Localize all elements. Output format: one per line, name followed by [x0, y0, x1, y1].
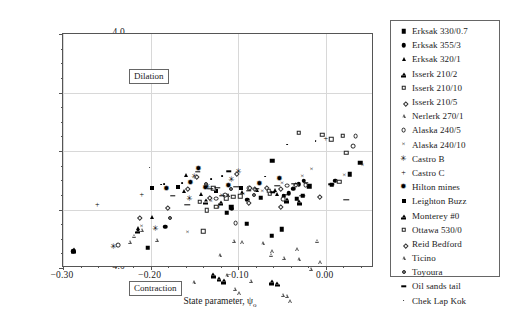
legend-marker-dash-icon	[397, 281, 410, 291]
data-point: ×	[359, 162, 367, 170]
legend-item-label: Erksak 330/0.7	[410, 26, 468, 36]
legend-item[interactable]: Isserk 210/2	[391, 67, 499, 81]
data-point	[71, 249, 76, 254]
legend-item-label: Erksak 320/1	[410, 54, 461, 64]
data-point	[282, 194, 288, 195]
data-point	[318, 260, 322, 264]
data-point	[278, 186, 283, 191]
data-point	[296, 130, 301, 135]
data-point	[269, 253, 273, 257]
data-point	[136, 228, 140, 231]
data-point	[320, 133, 325, 138]
data-point	[270, 191, 276, 192]
data-point	[163, 183, 165, 185]
x-tick-label: −0.30	[32, 270, 92, 280]
data-point	[160, 184, 162, 186]
legend-item[interactable]: Oil sands tail	[391, 279, 499, 293]
gridline-vertical	[326, 34, 327, 266]
legend-item[interactable]: Erksak 320/1	[391, 52, 499, 66]
legend-item[interactable]: Reid Bedford	[391, 237, 499, 251]
data-point	[303, 182, 308, 187]
data-point	[214, 196, 219, 201]
data-point: ×	[218, 192, 226, 200]
data-point	[176, 185, 180, 189]
data-point	[279, 227, 284, 232]
data-point	[240, 190, 244, 194]
legend-marker-sq-o-icon	[397, 83, 410, 93]
data-point	[185, 186, 190, 191]
legend-marker-di-o-icon	[397, 97, 410, 107]
data-point	[201, 229, 206, 234]
data-point	[265, 185, 270, 190]
legend-item[interactable]: Chek Lap Kok	[391, 294, 499, 308]
data-point	[244, 221, 249, 226]
data-point	[254, 188, 260, 189]
legend-item[interactable]: ✹Hilton mines	[391, 180, 499, 194]
data-point	[275, 192, 279, 196]
data-point	[275, 281, 279, 284]
x-tick-label: −0.20	[120, 270, 180, 280]
data-point: ×	[307, 166, 315, 174]
data-point	[204, 182, 208, 186]
data-point: ✳	[227, 176, 236, 185]
x-tick-minor	[98, 266, 99, 268]
legend-item[interactable]: Isserk 210/5	[391, 95, 499, 109]
y-tick-minor	[61, 122, 63, 123]
legend-item[interactable]: ×Alaska 240/10	[391, 138, 499, 152]
data-point: ✹	[224, 182, 233, 191]
legend-marker-ci-f-icon	[397, 40, 410, 50]
legend-item[interactable]: Monterey #0	[391, 208, 499, 222]
legend-item[interactable]: Nerlerk 270/1	[391, 109, 499, 123]
legend-item-label: Erksak 355/3	[410, 40, 461, 50]
data-point	[329, 183, 334, 188]
legend-item-label: Isserk 210/10	[410, 83, 462, 93]
data-point	[220, 195, 226, 196]
data-point	[224, 196, 229, 201]
data-point	[247, 186, 252, 191]
legend-marker-tri-f-icon	[397, 54, 410, 64]
legend-item[interactable]: Alaska 240/5	[391, 123, 499, 137]
data-point	[315, 140, 317, 142]
legend-item[interactable]: ✳Castro B	[391, 152, 499, 166]
data-point	[204, 199, 208, 202]
data-point	[252, 187, 257, 192]
legend-marker-plus-icon: +	[397, 168, 410, 178]
data-point	[340, 134, 345, 139]
data-point	[223, 192, 228, 197]
legend-item-label: Castro C	[410, 168, 445, 178]
data-point	[190, 180, 192, 182]
data-point: ✹	[162, 185, 171, 194]
data-point	[285, 198, 289, 201]
data-point	[247, 185, 252, 190]
data-point: ×	[278, 180, 286, 188]
x-tick-major	[151, 266, 152, 270]
legend-item-label: Isserk 210/5	[410, 97, 457, 107]
data-point	[207, 195, 212, 200]
x-tick-minor	[273, 266, 274, 268]
data-point	[239, 186, 243, 190]
legend-item[interactable]: Toyoura	[391, 265, 499, 279]
data-point	[233, 287, 237, 291]
data-point	[270, 158, 275, 163]
legend-item[interactable]: +Castro C	[391, 166, 499, 180]
legend-item-label: Hilton mines	[410, 182, 460, 192]
data-point: ×	[258, 188, 266, 196]
legend-marker-ci-o2-icon	[397, 267, 410, 277]
data-point	[72, 248, 76, 251]
legend-item[interactable]: Erksak 330/0.7	[391, 24, 499, 38]
data-point	[136, 226, 140, 230]
scatter-figure: Volumetric strain, εv (%) at peak φ′ Sta…	[0, 0, 505, 321]
data-point	[258, 196, 263, 201]
data-point	[218, 253, 222, 257]
legend-item[interactable]: Erksak 355/3	[391, 38, 499, 52]
legend-item-label: Nerlerk 270/1	[410, 111, 464, 121]
legend-item[interactable]: Leighton Buzz	[391, 194, 499, 208]
data-point	[240, 240, 244, 244]
x-tick-minor	[186, 266, 187, 268]
legend-item[interactable]: Ticino	[391, 251, 499, 265]
legend-item[interactable]: Ottawa 530/0	[391, 223, 499, 237]
data-point	[358, 160, 363, 165]
legend-item[interactable]: Isserk 210/10	[391, 81, 499, 95]
data-point	[292, 183, 298, 184]
data-point: ✹	[194, 164, 203, 173]
